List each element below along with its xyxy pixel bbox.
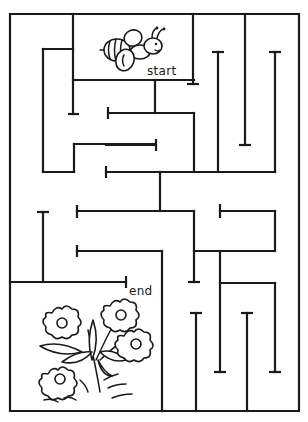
start-label: start	[147, 64, 176, 78]
flowers-icon	[39, 299, 153, 402]
end-label: end	[129, 284, 153, 298]
